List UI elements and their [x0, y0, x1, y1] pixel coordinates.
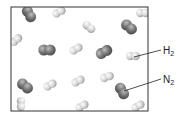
label-n2: N2: [163, 75, 174, 86]
leader-line: [124, 79, 161, 91]
h2-molecule: [99, 71, 115, 84]
n2-molecule: [38, 45, 55, 56]
n2-molecule: [15, 76, 35, 96]
n2-molecule: [94, 43, 115, 61]
molecules-layer: [8, 4, 150, 113]
h2-molecule: [81, 19, 97, 34]
h2-molecule: [42, 78, 58, 92]
molecule-diagram: [0, 0, 187, 118]
label-h2: H2: [163, 46, 174, 57]
n2-molecule: [119, 17, 139, 37]
h2-molecule: [8, 32, 24, 47]
h2-molecule: [17, 97, 25, 111]
n2-molecule: [113, 81, 131, 102]
h2-molecule: [70, 74, 86, 88]
h2-molecule: [68, 42, 84, 56]
